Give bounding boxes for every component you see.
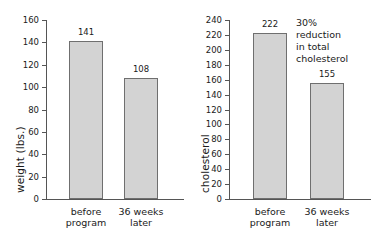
bar-36-weeks-later-weight xyxy=(124,78,158,199)
bar-36-weeks-later-cholesterol xyxy=(310,83,344,199)
chart-panel-cholesterol: cholesterol 0204060801001201401601802002… xyxy=(187,0,374,247)
y-tick-mark xyxy=(225,80,229,81)
y-tick-mark xyxy=(42,199,46,200)
y-tick-mark xyxy=(225,20,229,21)
y-tick-label: 40 xyxy=(13,150,39,159)
y-tick-mark xyxy=(42,177,46,178)
y-tick-mark xyxy=(42,87,46,88)
y-tick-mark xyxy=(42,42,46,43)
y-tick-label: 180 xyxy=(196,61,222,70)
y-tick-mark xyxy=(42,132,46,133)
y-tick-label: 160 xyxy=(196,76,222,85)
y-tick-label: 120 xyxy=(13,61,39,70)
y-axis-line-weight xyxy=(46,20,47,199)
y-tick-label: 100 xyxy=(196,120,222,129)
y-tick-label: 120 xyxy=(196,106,222,115)
bar-before-program-weight xyxy=(69,41,103,199)
y-axis-line-cholesterol xyxy=(229,20,230,199)
y-tick-mark xyxy=(42,110,46,111)
y-tick-label: 100 xyxy=(13,83,39,92)
y-tick-label: 0 xyxy=(13,195,39,204)
chart-panel-weight: weight (lbs.) 020406080100120140160 141 … xyxy=(0,0,187,247)
bar-value-label-36-weeks-later-weight: 108 xyxy=(118,65,164,74)
bar-value-label-before-program-weight: 141 xyxy=(63,28,109,37)
y-tick-mark xyxy=(225,50,229,51)
y-tick-label: 60 xyxy=(196,150,222,159)
figure-two-bar-charts: weight (lbs.) 020406080100120140160 141 … xyxy=(0,0,374,247)
x-axis-line-weight xyxy=(46,199,184,200)
y-tick-mark xyxy=(225,65,229,66)
bar-before-program-cholesterol xyxy=(253,33,287,199)
y-tick-label: 0 xyxy=(196,195,222,204)
annotation-cholesterol-reduction: 30% reduction in total cholesterol xyxy=(296,17,366,66)
y-tick-label: 20 xyxy=(196,180,222,189)
y-tick-label: 140 xyxy=(13,38,39,47)
y-tick-mark xyxy=(225,154,229,155)
y-tick-mark xyxy=(225,184,229,185)
y-tick-mark xyxy=(225,35,229,36)
plot-area-weight: 020406080100120140160 141 108 before pro… xyxy=(46,20,178,199)
y-tick-mark xyxy=(225,95,229,96)
x-axis-line-cholesterol xyxy=(229,199,371,200)
y-tick-label: 200 xyxy=(196,46,222,55)
bar-value-label-before-program-cholesterol: 222 xyxy=(247,20,293,29)
y-tick-mark xyxy=(42,65,46,66)
y-tick-mark xyxy=(42,154,46,155)
y-tick-mark xyxy=(225,139,229,140)
y-tick-label: 80 xyxy=(196,135,222,144)
y-tick-label: 220 xyxy=(196,31,222,40)
bar-value-label-36-weeks-later-cholesterol: 155 xyxy=(304,70,350,79)
x-axis-category-label-36-weeks-later-cholesterol: 36 weeks later xyxy=(296,206,358,228)
plot-area-cholesterol: 020406080100120140160180200220240 222 15… xyxy=(229,20,365,199)
y-tick-mark xyxy=(225,169,229,170)
y-tick-label: 140 xyxy=(196,91,222,100)
x-axis-category-label-before-program-cholesterol: before program xyxy=(239,206,301,228)
x-axis-category-label-before-program-weight: before program xyxy=(55,206,117,228)
y-tick-mark xyxy=(42,20,46,21)
y-tick-mark xyxy=(225,124,229,125)
y-tick-mark xyxy=(225,110,229,111)
y-tick-label: 40 xyxy=(196,165,222,174)
y-tick-label: 240 xyxy=(196,16,222,25)
y-tick-label: 20 xyxy=(13,173,39,182)
y-tick-mark xyxy=(225,199,229,200)
y-tick-label: 60 xyxy=(13,128,39,137)
y-tick-label: 160 xyxy=(13,16,39,25)
x-axis-category-label-36-weeks-later-weight: 36 weeks later xyxy=(110,206,172,228)
y-tick-label: 80 xyxy=(13,106,39,115)
